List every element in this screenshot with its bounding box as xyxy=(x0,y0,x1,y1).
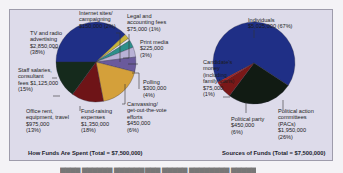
caption-spending: How Funds Are Spent (Total = $7,500,000) xyxy=(28,150,143,156)
label-party: Political party $450,000 (6%) xyxy=(231,116,264,135)
caption-sources: Sources of Funds (Total = $7,500,000) xyxy=(222,150,325,156)
label-fundraising: Fund-raising expenses $1,350,000 (18%) xyxy=(81,108,112,134)
label-tv-radio: TV and radio advertising $2,850,000 (38%… xyxy=(30,30,62,56)
label-print-media: Print media $225,000 (3%) xyxy=(140,39,168,58)
label-office: Office rent, equipment, travel $975,000 … xyxy=(26,108,69,134)
figure-caption-cutoff: ▆▆▆▆ ▆▆▆▆▆▆ ▆▆▆▆▆▆ ▆▆▆ ▆▆▆▆▆ ▆▆▆▆▆▆▆▆ ▆▆… xyxy=(60,164,256,173)
label-polling: Polling $300,000 (4%) xyxy=(143,79,166,98)
label-legal: Legal and accounting fees $75,000 (1%) xyxy=(127,13,166,32)
label-canvassing: Canvassing/ get-out-the-vote efforts $45… xyxy=(127,101,167,133)
label-candidate: Candidate's money (including family loan… xyxy=(203,59,234,97)
label-internet: Internet sites/ campaigning $150,000 (2%… xyxy=(79,10,116,29)
label-pacs: Political action committees (PACs) $1,95… xyxy=(278,108,314,140)
spending-pie xyxy=(56,22,136,102)
label-staff: Staff salaries, consultant fees $1,125,0… xyxy=(18,67,58,93)
label-individuals: Individuals $5,025,000 (67%) xyxy=(248,17,292,30)
